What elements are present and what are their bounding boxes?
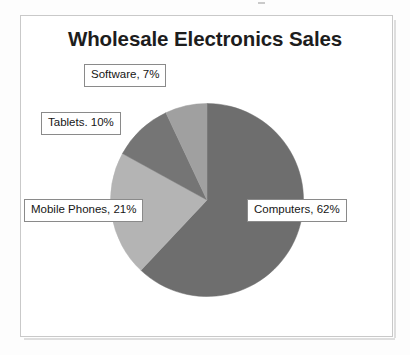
data-label-software: Software, 7% <box>84 64 166 87</box>
frame-shadow-right <box>394 20 396 338</box>
frame-shadow-bottom <box>24 338 395 340</box>
data-label-mobile-phones: Mobile Phones, 21% <box>24 199 143 222</box>
chart-screenshot: Wholesale Electronics Sales Software, 7%… <box>0 0 410 355</box>
data-label-computers: Computers, 62% <box>247 199 347 222</box>
data-label-tablets: Tablets. 10% <box>41 112 121 135</box>
chart-title: Wholesale Electronics Sales <box>0 27 410 51</box>
scan-artifact <box>258 2 265 4</box>
